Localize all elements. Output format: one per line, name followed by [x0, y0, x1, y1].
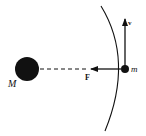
label-m: m [131, 64, 138, 74]
orbiting-body-m [121, 65, 129, 73]
label-v: v [128, 19, 132, 27]
central-body-M [15, 57, 39, 81]
label-M: M [7, 78, 17, 89]
orbit-force-diagram: M m F v [0, 0, 146, 136]
label-F: F [85, 73, 90, 82]
